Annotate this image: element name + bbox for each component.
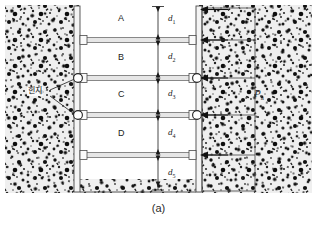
dimension-sub-d4: 4: [173, 133, 176, 139]
zone-label-b: B: [118, 53, 124, 62]
dimension-label-d5: d5: [168, 168, 176, 179]
pressure-sub: a: [261, 94, 264, 102]
dimension-sub-d5: 5: [173, 173, 176, 179]
zone-label-a: A: [118, 14, 124, 23]
dimension-sub-d2: 2: [173, 57, 176, 63]
hinge-left-upper[interactable]: [74, 74, 83, 83]
dimension-sub-d1: 1: [173, 19, 176, 25]
zone-label-d: D: [118, 129, 125, 138]
hinge-leader-lines: [50, 80, 74, 114]
pressure-arrow-1: [202, 37, 229, 42]
strut-4[interactable]: [80, 151, 196, 160]
pressure-arrow-2: [202, 75, 229, 80]
diagram-area: A B C D d1 d2 d3 d4 d5 Pa 힌지: [0, 0, 317, 200]
strut-1-end-plate-left: [80, 36, 87, 45]
hinge-left-lower[interactable]: [74, 111, 83, 120]
dimension-label-d4: d4: [168, 128, 176, 139]
figure-root: A B C D d1 d2 d3 d4 d5 Pa 힌지 (a): [0, 0, 317, 234]
pressure-arrow-3: [202, 112, 229, 117]
figure-caption: (a): [0, 202, 317, 214]
dimension-label-d3: d3: [168, 89, 176, 100]
pressure-arrow-4: [202, 152, 229, 157]
strut-2[interactable]: [80, 74, 196, 83]
zone-label-c: C: [118, 90, 125, 99]
pressure-arrows: [202, 7, 229, 158]
dimension-sub-d3: 3: [173, 94, 176, 100]
structure-layer: [0, 0, 317, 200]
dimension-label-d1: d1: [168, 14, 176, 25]
strut-4-end-plate-left: [80, 151, 87, 160]
hinge-annotation-label: 힌지: [27, 87, 43, 96]
hinge-right-lower[interactable]: [193, 111, 202, 120]
left-retaining-wall[interactable]: [74, 6, 80, 192]
strut-1-end-plate-right: [189, 36, 196, 45]
pressure-label: Pa: [254, 88, 264, 102]
hinge-right-upper[interactable]: [193, 74, 202, 83]
strut-4-end-plate-right: [189, 151, 196, 160]
right-retaining-wall[interactable]: [196, 6, 202, 192]
strut-3[interactable]: [80, 111, 196, 120]
dimension-label-d2: d2: [168, 52, 176, 63]
pressure-symbol: P: [254, 87, 261, 99]
pressure-diagram[interactable]: [202, 7, 256, 191]
pressure-dividers: [202, 40, 255, 155]
strut-1[interactable]: [80, 36, 196, 45]
